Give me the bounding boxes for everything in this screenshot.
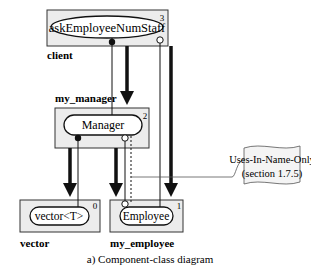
component-label-client: client — [47, 49, 73, 61]
class-name-askEmployeeNumStaff: askEmployeeNumStaff — [49, 21, 166, 35]
filled-dot-icon — [109, 39, 115, 45]
class-name-manager: Manager — [82, 118, 125, 132]
component-label-my-employee: my_employee — [110, 237, 174, 249]
component-label-my-manager: my_manager — [55, 92, 117, 104]
level-number-vector: 0 — [93, 201, 98, 211]
class-name-employee: Employee — [123, 210, 170, 223]
component-label-vector: vector — [20, 237, 49, 249]
class-name-vector: vector<T> — [35, 210, 84, 222]
filled-dot-icon — [75, 135, 81, 141]
open-circle-icon — [122, 201, 128, 207]
level-number-my-manager: 2 — [143, 111, 148, 121]
diagram-caption: a) Component-class diagram — [87, 253, 214, 266]
component-class-diagram: askEmployeeNumStaff 3 client my_manager … — [0, 0, 311, 270]
level-number-client: 3 — [160, 13, 165, 23]
note-text-line1: Uses-In-Name-Only — [229, 154, 311, 165]
level-number-my-employee: 1 — [177, 201, 182, 211]
open-circle-icon — [157, 37, 163, 43]
note-text-line2: (section 1.7.5) — [242, 168, 303, 180]
open-circle-icon — [122, 135, 128, 141]
